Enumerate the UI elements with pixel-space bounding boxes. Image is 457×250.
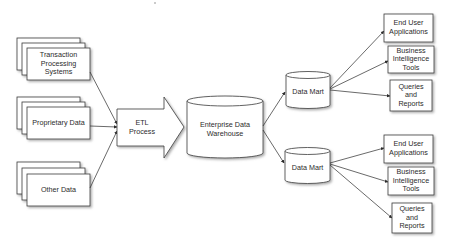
consumer-bi-tools-2-box <box>388 167 434 195</box>
data-mart-1-cylinder <box>286 72 330 109</box>
consumer-bi-tools-1-box <box>388 46 434 73</box>
diagram-canvas <box>0 0 457 250</box>
source-transaction-stack <box>17 38 90 80</box>
mart1-to-consumer-connectors <box>330 31 390 96</box>
consumer-queries-2-box <box>392 203 432 233</box>
mart2-to-consumer-connectors <box>330 148 392 218</box>
consumer-end-user-1-box <box>384 14 433 42</box>
warehouse-to-mart-connectors <box>263 92 285 163</box>
data-warehouse-diagram: Transaction Processing Systems Proprieta… <box>0 0 457 250</box>
speck <box>154 2 156 4</box>
warehouse-cylinder <box>187 96 263 158</box>
source-other-stack <box>17 162 90 206</box>
source-to-etl-connectors <box>90 72 117 188</box>
data-mart-2-cylinder <box>285 148 330 184</box>
etl-block-arrow <box>117 97 184 158</box>
source-proprietary-stack <box>17 97 90 139</box>
consumer-end-user-2-box <box>384 135 433 163</box>
consumer-queries-1-box <box>390 80 432 111</box>
